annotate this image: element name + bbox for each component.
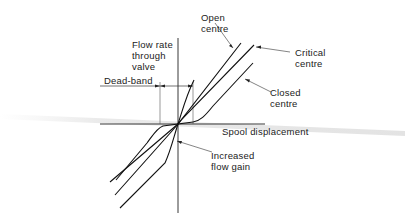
increased-flow-gain-label-line-1: Increased	[211, 150, 255, 161]
increased-flow-gain-leader	[177, 141, 212, 152]
open-centre-label-line-1: Open	[201, 12, 225, 23]
valve-characteristic-diagram: Flow rate through valve Dead-band Open c…	[0, 0, 405, 219]
open-centre-label-line-2: centre	[201, 23, 229, 34]
closed-centre-label-line-2: centre	[270, 98, 298, 109]
increased-flow-gain-label-line-2: flow gain	[211, 161, 250, 172]
y-axis-label-line-1: Flow rate	[132, 39, 173, 50]
critical-centre-label-line-1: Critical	[295, 47, 326, 58]
critical-centre-label-line-2: centre	[295, 58, 323, 69]
increased-flow-gain-curve	[120, 80, 194, 208]
dead-band-label: Dead-band	[104, 75, 153, 86]
y-axis-label-line-3: valve	[132, 61, 155, 72]
closed-centre-label-line-1: Closed	[270, 87, 301, 98]
critical-centre-leader	[256, 47, 290, 52]
dead-band-dimension	[100, 82, 193, 124]
x-axis-label: Spool displacement	[222, 126, 309, 137]
y-axis-label-line-2: through	[132, 50, 166, 61]
